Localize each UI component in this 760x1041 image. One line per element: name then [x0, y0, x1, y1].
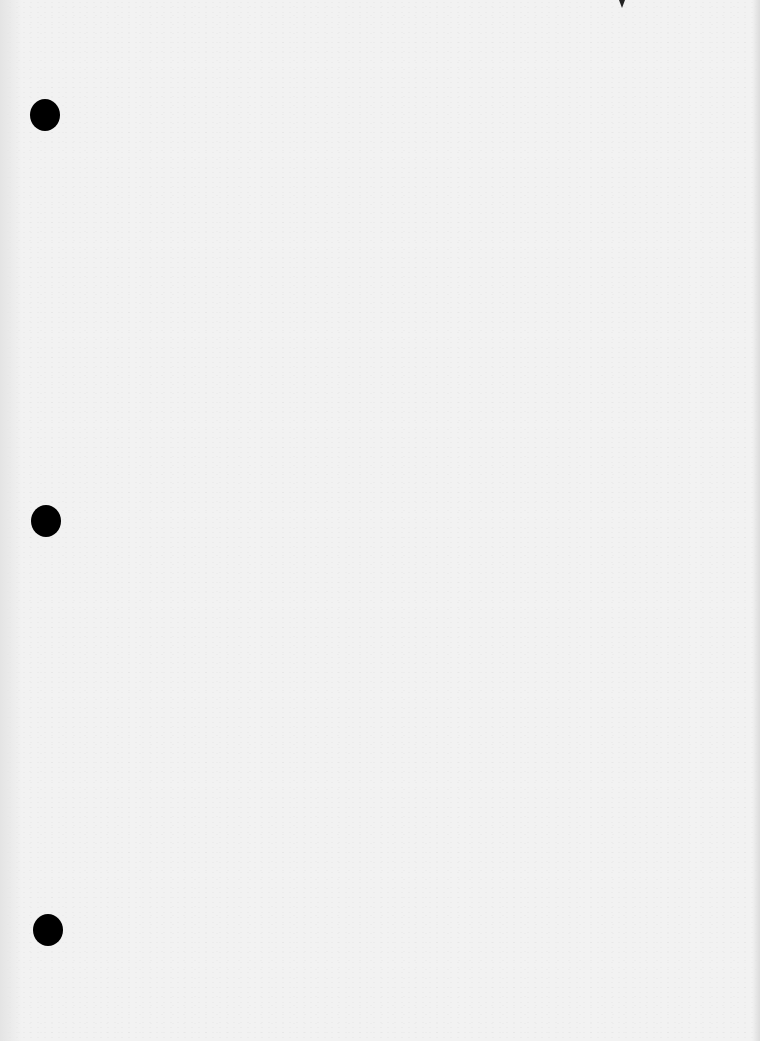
- scanned-page: [0, 0, 760, 1041]
- page-right-edge: [752, 0, 760, 1041]
- page-left-shadow: [0, 0, 22, 1041]
- top-edge-mark: [619, 0, 625, 8]
- binder-hole-middle: [31, 505, 61, 537]
- binder-hole-top: [30, 99, 60, 131]
- binder-hole-bottom: [33, 914, 63, 946]
